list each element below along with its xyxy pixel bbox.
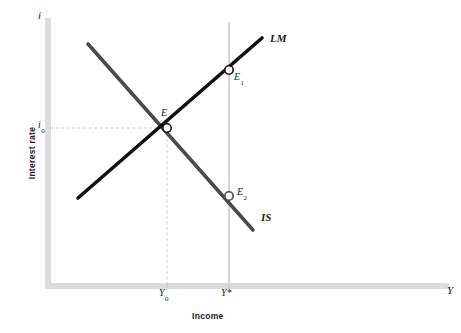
is-curve-label: IS [261,212,271,223]
marker-label-E1-base: E [234,71,240,82]
marker-label-E: E [161,108,167,118]
y-axis-tip-label: i [38,10,41,21]
marker-label-E2: E2 [237,187,247,200]
marker-label-E2-base: E [237,186,243,197]
marker-E2 [225,192,233,200]
x-axis-tip-label: Y [447,285,453,296]
y-tick-label-i0: i0 [38,120,44,133]
y-axis-title: Interest rate [27,113,37,193]
marker-label-E1-sub: 1 [241,79,245,87]
chart-canvas [0,0,461,333]
x-tick-label-y0-base: Y [159,287,165,298]
y-axis [45,18,51,289]
lm-curve-label: LM [270,33,287,44]
marker-label-E2-sub: 2 [244,194,248,202]
x-tick-label-ystar: Y* [221,288,232,298]
is-lm-chart: i Y LM IS E E1 E2 i0 Y0 Y* Income Intere… [0,0,461,333]
y-tick-label-i0-sub: 0 [41,127,45,135]
marker-E [163,124,171,132]
x-axis-title: Income [192,311,224,321]
x-tick-label-y0: Y0 [159,288,168,301]
marker-label-E1: E1 [234,72,244,85]
x-tick-label-y0-sub: 0 [165,295,169,303]
marker-E1 [225,66,233,74]
x-axis [45,283,449,289]
